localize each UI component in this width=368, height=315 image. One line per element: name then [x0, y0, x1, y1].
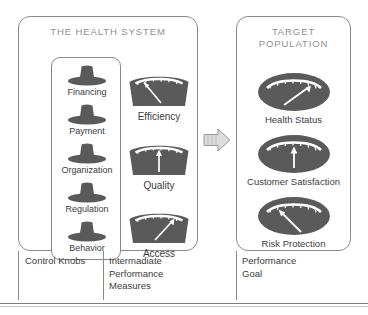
measure-efficiency[interactable]: Efficiency: [122, 70, 196, 123]
control-knob-behavior[interactable]: Behavior: [52, 220, 122, 254]
knob-icon: [65, 64, 109, 86]
outcome-label: Health Status: [237, 113, 350, 126]
control-knob-payment[interactable]: Payment: [52, 103, 122, 137]
outcome-label: Risk Protection: [237, 237, 350, 250]
target-population-panel: TARGET POPULATION Health Status: [236, 16, 351, 251]
caption-intermediate-performance-measures: Intermadiate Performance Measures: [109, 255, 163, 293]
figure-canvas: THE HEALTH SYSTEM Financing Paymen: [0, 0, 368, 315]
oval-gauge-icon: [257, 196, 331, 236]
knob-icon: [65, 103, 109, 125]
measure-quality[interactable]: Quality: [122, 139, 196, 192]
bottom-rule-secondary: [0, 306, 368, 307]
caption-performance-goal: Performance Goal: [242, 255, 296, 280]
control-knob-regulation[interactable]: Regulation: [52, 181, 122, 215]
control-knob-label: Organization: [52, 164, 122, 176]
knob-icon: [65, 181, 109, 203]
caption-divider-right: [236, 251, 237, 300]
measure-label: Quality: [122, 179, 196, 192]
right-arrow-icon: [203, 127, 231, 153]
outcome-health-status[interactable]: Health Status: [237, 72, 350, 126]
control-knobs-box: Financing Payment Organization: [51, 57, 121, 260]
control-knob-organization[interactable]: Organization: [52, 142, 122, 176]
measure-label: Efficiency: [122, 110, 196, 123]
control-knob-label: Financing: [52, 86, 122, 98]
oval-gauge-icon: [257, 72, 331, 112]
health-system-panel: THE HEALTH SYSTEM Financing Paymen: [18, 16, 198, 251]
outcome-customer-satisfaction[interactable]: Customer Satisfaction: [237, 134, 350, 188]
control-knob-financing[interactable]: Financing: [52, 64, 122, 98]
measure-access[interactable]: Access: [122, 207, 196, 260]
outcome-label: Customer Satisfaction: [237, 175, 350, 188]
knob-icon: [65, 220, 109, 242]
oval-gauge-icon: [257, 134, 331, 174]
caption-divider-left: [18, 251, 19, 300]
gauge-icon: [127, 70, 191, 108]
caption-divider-middle: [103, 251, 104, 300]
health-system-title: THE HEALTH SYSTEM: [19, 26, 197, 38]
gauge-icon: [127, 207, 191, 245]
control-knob-label: Payment: [52, 125, 122, 137]
caption-control-knobs: Control Knobs: [25, 255, 85, 268]
control-knob-label: Regulation: [52, 203, 122, 215]
target-population-title: TARGET POPULATION: [237, 26, 350, 50]
gauge-icon: [127, 139, 191, 177]
bottom-rule: [0, 303, 368, 304]
knob-icon: [65, 142, 109, 164]
outcome-risk-protection[interactable]: Risk Protection: [237, 196, 350, 250]
control-knob-label: Behavior: [52, 242, 122, 254]
